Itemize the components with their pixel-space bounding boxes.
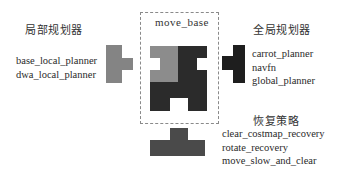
local-planner-heading: 局部规划器 xyxy=(25,21,83,37)
move-base-container xyxy=(140,12,219,124)
recovery-item: clear_costmap_recovery xyxy=(222,127,325,141)
global-planner-item: navfn xyxy=(252,61,315,75)
global-planner-item: global_planner xyxy=(252,74,315,88)
global-planner-piece xyxy=(222,45,245,83)
recovery-piece xyxy=(150,128,205,156)
global-planner-list: carrot_planner navfn global_planner xyxy=(252,47,315,88)
recovery-item: rotate_recovery xyxy=(222,141,325,155)
recovery-list: clear_costmap_recovery rotate_recovery m… xyxy=(222,127,325,168)
global-planner-item: carrot_planner xyxy=(252,47,315,61)
local-planner-list: base_local_planner dwa_local_planner xyxy=(16,54,97,81)
recovery-item: move_slow_and_clear xyxy=(222,154,325,168)
local-planner-item: base_local_planner xyxy=(16,54,97,68)
local-planner-item: dwa_local_planner xyxy=(16,68,97,82)
global-planner-heading: 全局规划器 xyxy=(253,21,311,37)
move-base-title: move_base xyxy=(155,16,209,28)
recovery-heading: 恢复策略 xyxy=(253,112,299,128)
local-planner-piece xyxy=(106,45,133,83)
